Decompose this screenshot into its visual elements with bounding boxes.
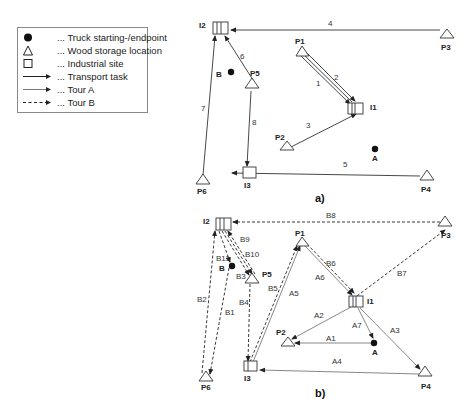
label-I2: I2 <box>203 217 210 226</box>
edge-label-1: 1 <box>316 79 321 88</box>
label-I2: I2 <box>199 21 206 30</box>
label-B: B <box>216 70 222 79</box>
edge-label-B11: B11 <box>216 254 230 263</box>
edge-label-A2: A2 <box>314 311 324 320</box>
edge-8 <box>247 91 251 166</box>
label-A: A <box>372 154 378 163</box>
edge-label-A1: A1 <box>326 334 336 343</box>
label-I3: I3 <box>244 181 251 190</box>
label-P5: P5 <box>250 69 260 78</box>
label-B: B <box>219 264 225 273</box>
label-P4: P4 <box>421 185 431 194</box>
label-I3: I3 <box>244 374 251 383</box>
label-P1: P1 <box>295 229 305 238</box>
edge-label-B9: B9 <box>240 235 250 244</box>
edge-B1 <box>210 268 229 374</box>
industrial-site-I2 <box>213 22 228 34</box>
edge-A6 <box>305 246 352 295</box>
edge-label-5: 5 <box>343 160 348 169</box>
label-P2: P2 <box>276 328 286 337</box>
edge-label-A5: A5 <box>289 289 299 298</box>
wood-storage-P6 <box>199 371 213 381</box>
wood-storage-P1 <box>296 237 309 246</box>
edge-3 <box>291 114 356 147</box>
label-P6: P6 <box>201 383 211 392</box>
edge-label-B10: B10 <box>245 250 260 259</box>
edge-label-A3: A3 <box>390 326 400 335</box>
edge-label-B6: B6 <box>326 259 336 268</box>
edge-B7 <box>357 230 445 296</box>
edge-label-B1: B1 <box>225 308 235 317</box>
label-P6: P6 <box>197 187 207 196</box>
network-diagram: I2 I1 I3 P3 P1 P2 P4 P5 P6 A B 4 1 2 3 5… <box>0 0 471 417</box>
edge-A3 <box>360 308 420 369</box>
edge-label-B3: B3 <box>236 272 246 281</box>
wood-storage-P2 <box>280 141 294 150</box>
edge-label-3: 3 <box>306 121 311 130</box>
wood-storage-P5 <box>245 78 259 88</box>
industrial-site-I3 <box>244 361 257 371</box>
panel-b-caption: b) <box>315 387 326 399</box>
wood-storage-P5 <box>245 273 259 283</box>
edge-label-B5: B5 <box>268 284 278 293</box>
edge-label-4: 4 <box>328 19 333 28</box>
edge-label-7: 7 <box>201 104 206 113</box>
edge-label-B4: B4 <box>239 298 249 307</box>
label-P1: P1 <box>295 37 305 46</box>
label-I1: I1 <box>367 297 374 306</box>
edge-B6 <box>307 244 354 293</box>
edge-A4 <box>260 370 419 374</box>
wood-storage-P1 <box>296 46 309 56</box>
edge-label-B8: B8 <box>326 211 336 220</box>
panel-b: I2 I1 I3 P3 P1 P2 P4 P5 P6 A B A1 A2 A3 … <box>197 211 452 399</box>
edge-2 <box>306 52 355 101</box>
wood-storage-P6 <box>196 174 210 184</box>
edge-label-6: 6 <box>240 52 245 61</box>
wood-storage-P4 <box>418 366 432 376</box>
panel-a: I2 I1 I3 P3 P1 P2 P4 P5 P6 A B 4 1 2 3 5… <box>196 19 454 204</box>
industrial-site-I2 <box>216 218 231 230</box>
edge-label-B7: B7 <box>397 269 407 278</box>
edge-B4 <box>248 284 250 361</box>
label-P3: P3 <box>441 43 451 52</box>
panel-a-caption: a) <box>315 192 325 204</box>
label-A: A <box>372 348 378 357</box>
label-P5: P5 <box>262 270 272 279</box>
label-P3: P3 <box>441 231 451 240</box>
label-P4: P4 <box>421 382 431 391</box>
wood-storage-P3 <box>438 216 452 226</box>
industrial-site-I3 <box>243 167 256 178</box>
edge-label-2: 2 <box>334 73 339 82</box>
edge-label-8: 8 <box>252 118 257 127</box>
edge-label-A6: A6 <box>315 273 325 282</box>
truck-point-A <box>372 146 378 152</box>
edge-5 <box>232 173 420 176</box>
wood-storage-P4 <box>420 170 434 180</box>
truck-point-B <box>228 69 234 75</box>
label-P2: P2 <box>275 133 285 142</box>
truck-point-A <box>371 340 377 346</box>
truck-point-B <box>229 263 235 269</box>
edge-label-A7: A7 <box>352 321 362 330</box>
wood-storage-P3 <box>440 29 454 38</box>
label-I1: I1 <box>370 103 377 112</box>
edge-1 <box>303 54 352 102</box>
edge-label-B2: B2 <box>197 295 207 304</box>
industrial-site-I1 <box>348 103 363 114</box>
edge-label-A4: A4 <box>332 357 342 366</box>
